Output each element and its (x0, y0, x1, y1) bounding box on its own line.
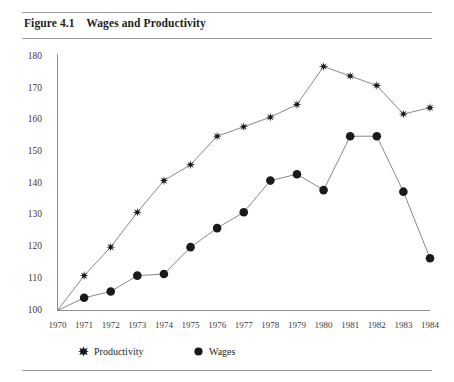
x-tick-1976: 1976 (204, 320, 230, 330)
x-tick-1972: 1972 (98, 320, 124, 330)
data-point-productivity-1982 (372, 81, 381, 90)
legend-label-wages: Wages (209, 346, 235, 357)
data-point-productivity-1971 (80, 271, 89, 280)
diamond-star-icon (78, 346, 89, 357)
title-rule-top (22, 12, 432, 13)
data-point-wages-1976 (213, 224, 222, 233)
data-point-wages-1973 (133, 271, 142, 280)
data-point-wages-1980 (319, 186, 328, 195)
data-point-wages-1971 (80, 294, 89, 303)
data-point-wages-1982 (372, 132, 381, 141)
data-point-productivity-1977 (239, 122, 248, 131)
title-rule-bottom (22, 38, 432, 39)
x-tick-1970: 1970 (45, 320, 71, 330)
x-tick-1982: 1982 (364, 320, 390, 330)
data-point-productivity-1975 (186, 160, 195, 169)
series-polylines (58, 67, 431, 311)
data-point-productivity-1984 (425, 103, 434, 112)
data-point-productivity-1979 (292, 100, 301, 109)
data-point-productivity-1983 (399, 109, 408, 118)
x-tick-1984: 1984 (417, 320, 443, 330)
data-point-productivity-1974 (159, 176, 168, 185)
data-point-productivity-1973 (133, 208, 142, 217)
page-title: Figure 4.1 Wages and Productivity (24, 17, 206, 29)
y-tick-130: 130 (18, 209, 42, 219)
legend-label-productivity: Productivity (94, 346, 143, 357)
chart-legend: Productivity Wages (0, 346, 454, 364)
data-point-wages-1974 (160, 270, 169, 279)
axis-lines (58, 54, 431, 311)
figure-rule-bottom (22, 370, 432, 371)
data-point-productivity-1976 (213, 132, 222, 141)
data-point-wages-1979 (293, 170, 302, 179)
y-tick-180: 180 (18, 51, 42, 61)
chart-svg (0, 44, 454, 320)
y-tick-170: 170 (18, 83, 42, 93)
series-line-wages (58, 136, 431, 310)
data-point-productivity-1978 (266, 113, 275, 122)
series-markers (80, 62, 435, 302)
data-point-wages-1972 (106, 287, 115, 296)
series-line-productivity (58, 67, 431, 311)
x-tick-1979: 1979 (284, 320, 310, 330)
y-tick-160: 160 (18, 114, 42, 124)
data-point-wages-1977 (239, 208, 248, 217)
chart-plot-area (0, 44, 454, 320)
x-tick-1978: 1978 (257, 320, 283, 330)
filled-circle-icon (193, 346, 204, 357)
figure-container: Figure 4.1 Wages and Productivity 180170… (0, 0, 454, 382)
data-point-productivity-1972 (106, 243, 115, 252)
data-point-wages-1981 (346, 132, 355, 141)
data-point-wages-1984 (426, 254, 435, 263)
y-tick-150: 150 (18, 146, 42, 156)
x-tick-1981: 1981 (337, 320, 363, 330)
x-tick-1983: 1983 (390, 320, 416, 330)
data-point-wages-1983 (399, 187, 408, 196)
legend-item-wages[interactable]: Wages (193, 346, 235, 357)
y-tick-110: 110 (18, 273, 42, 283)
y-tick-100: 100 (18, 305, 42, 315)
data-point-wages-1975 (186, 243, 195, 252)
y-tick-120: 120 (18, 241, 42, 251)
y-tick-140: 140 (18, 178, 42, 188)
x-tick-1971: 1971 (71, 320, 97, 330)
x-tick-1974: 1974 (151, 320, 177, 330)
x-tick-1975: 1975 (178, 320, 204, 330)
data-point-productivity-1981 (346, 71, 355, 80)
x-tick-1973: 1973 (124, 320, 150, 330)
data-point-productivity-1980 (319, 62, 328, 71)
x-tick-1980: 1980 (311, 320, 337, 330)
x-tick-1977: 1977 (231, 320, 257, 330)
data-point-wages-1978 (266, 176, 275, 185)
legend-item-productivity[interactable]: Productivity (78, 346, 143, 357)
